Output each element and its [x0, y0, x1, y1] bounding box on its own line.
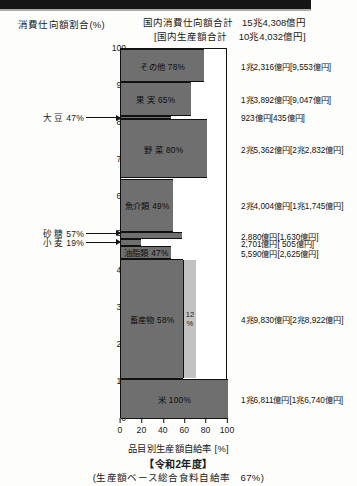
value-annotation-魚介類: 2兆4,004億円[1兆1,745億円]: [241, 199, 344, 211]
x-axis-tick-0: 0: [118, 425, 123, 435]
callout-arrow-大豆: [86, 117, 120, 118]
x-axis-label: 品目別生産額自給率 [%]: [0, 441, 357, 455]
bar-魚介類: 魚介類 49%: [121, 179, 173, 233]
callout-label-大豆: 大 豆 47%: [43, 111, 84, 123]
x-tick-mark: [120, 418, 121, 423]
bar-label-畜産物: 畜産物 58%: [121, 313, 183, 325]
chart-header-totals: 国内消費仕向額合計15兆4,308億円 [国内生産額合計10兆4,032億円]: [143, 16, 306, 43]
bar-油脂類: 油脂類 47%: [121, 246, 171, 259]
x-axis-tick-60: 60: [179, 425, 189, 435]
bar-subsegment-label: 12%: [186, 310, 194, 328]
bar-label-果実: 果 実 65%: [121, 93, 191, 105]
bar-label-野菜: 野 菜 80%: [121, 143, 207, 155]
callout-arrow-砂糖: [86, 233, 120, 234]
bar-label-魚介類: 魚介類 49%: [121, 199, 173, 211]
total-production-row: [国内生産額合計10兆4,032億円]: [154, 30, 306, 44]
value-annotation-畜産物: 4兆9,830億円[2兆8,922億円]: [241, 313, 344, 325]
y-axis-title: 消費仕向額割合(%): [18, 17, 105, 31]
value-annotation-大豆: 923億円[435億円]: [241, 111, 305, 123]
x-tick-mark: [206, 418, 207, 423]
bar-畜産物: 畜産物 58%12%: [121, 259, 183, 379]
x-axis-tick-100: 100: [220, 425, 234, 435]
value-annotation-その他: 1兆2,316億円[9,553億円]: [241, 60, 331, 72]
bar-その他: その他 78%: [121, 49, 204, 82]
total-consumption-row: 国内消費仕向額合計15兆4,308億円: [143, 16, 306, 30]
bar-label-油脂類: 油脂類 47%: [121, 246, 171, 258]
x-axis-ticks: 020406080100: [120, 419, 227, 439]
bar-小麦: 小 麦 19%: [121, 239, 141, 246]
chart-plot-area: 米 100%畜産物 58%12%油脂類 47%小 麦 19%砂 糖 57%魚介類…: [120, 48, 227, 418]
x-axis-tick-80: 80: [201, 425, 211, 435]
bar-米: 米 100%: [121, 379, 228, 419]
value-annotation-米: 1兆6,811億円[1兆6,740億円]: [241, 393, 343, 405]
bar-subsegment-畜産物: 12%: [183, 260, 196, 378]
x-tick-mark: [163, 418, 164, 423]
value-annotation-野菜: 2兆5,362億円[2兆2,832億円]: [241, 143, 344, 155]
bar-野菜: 野 菜 80%: [121, 119, 207, 178]
bar-label-米: 米 100%: [121, 393, 228, 405]
x-axis-tick-20: 20: [137, 425, 147, 435]
overall-rate-label: (生産額ベース総合食料自給率 67%): [0, 470, 357, 484]
total-consumption-value: 15兆4,308億円: [242, 17, 306, 28]
x-tick-mark: [227, 418, 228, 423]
total-production-value: 10兆4,032億円]: [239, 31, 306, 42]
fiscal-year-label: 【令和2年度】: [0, 456, 357, 471]
scan-artifact-bar: [0, 0, 311, 9]
x-tick-mark: [184, 418, 185, 423]
bar-label-その他: その他 78%: [121, 60, 204, 72]
bar-砂糖: 砂 糖 57%: [121, 232, 182, 239]
total-production-label: [国内生産額合計: [154, 31, 227, 42]
callout-label-小麦: 小 麦 19%: [43, 236, 84, 248]
total-consumption-label: 国内消費仕向額合計: [143, 17, 233, 28]
value-annotation-果実: 1兆3,892億円[9,047億円]: [241, 93, 331, 105]
bar-果実: 果 実 65%: [121, 82, 191, 115]
value-annotation-砂糖: 2,880億円[1,630億円]: [241, 230, 319, 242]
x-tick-mark: [141, 418, 142, 423]
callout-arrow-小麦: [86, 242, 120, 243]
bar-大豆: 大 豆 47%: [121, 116, 171, 120]
x-axis-tick-40: 40: [158, 425, 168, 435]
